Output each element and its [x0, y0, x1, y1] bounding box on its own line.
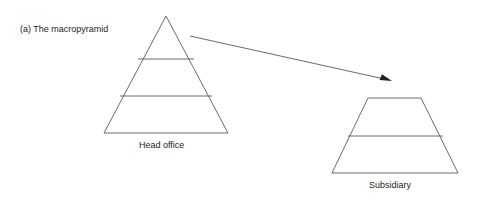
label-head-office: Head office: [139, 141, 184, 150]
subsidiary-outline: [332, 98, 458, 173]
label-subsidiary: Subsidiary: [369, 181, 411, 190]
arrow-shaft: [190, 36, 387, 80]
figure-title: (a) The macropyramid: [20, 25, 108, 34]
arrow-head-icon: [380, 74, 393, 81]
pyramid-head-office: [104, 16, 228, 133]
relationship-arrow: [190, 36, 392, 81]
trapezoid-subsidiary: [332, 98, 458, 173]
macropyramid-figure: (a) The macropyramid Head office Subsidi…: [0, 0, 477, 205]
pyramid-outline: [104, 16, 228, 133]
